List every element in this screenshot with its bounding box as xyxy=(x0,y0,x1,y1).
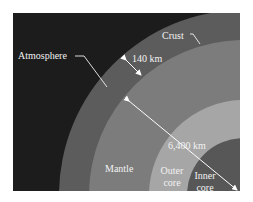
earth-layers-diagram: Atmosphere Crust 140 km 6,400 km Mantle … xyxy=(13,13,240,191)
inner-core-label-line1: Inner xyxy=(190,171,220,181)
outer-core-label: Outer core xyxy=(157,166,187,188)
outer-core-label-line2: core xyxy=(157,178,187,188)
atmosphere-label: Atmosphere xyxy=(18,51,67,61)
atmosphere-thickness-label: 140 km xyxy=(132,54,162,64)
outer-core-label-line1: Outer xyxy=(157,166,187,176)
crust-label: Crust xyxy=(162,31,184,41)
inner-core-label: Inner core xyxy=(190,171,220,191)
earth-radius-label: 6,400 km xyxy=(168,141,206,151)
inner-core-label-line2: core xyxy=(190,183,220,191)
mantle-label: Mantle xyxy=(105,164,133,174)
